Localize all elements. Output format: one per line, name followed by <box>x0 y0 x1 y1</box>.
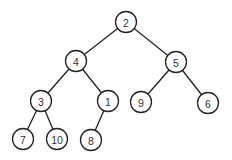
tree-node: 2 <box>116 12 137 33</box>
node-label: 4 <box>73 56 79 68</box>
tree-node: 6 <box>198 93 219 114</box>
node-label: 5 <box>173 57 179 69</box>
tree-nodes: 24531967108 <box>13 12 219 151</box>
tree-node: 7 <box>13 129 34 150</box>
binary-tree-diagram: 24531967108 <box>0 0 232 160</box>
tree-node: 3 <box>31 91 52 112</box>
tree-node: 8 <box>81 130 102 151</box>
tree-node: 10 <box>47 129 68 150</box>
node-label: 2 <box>123 17 129 29</box>
tree-node: 4 <box>66 51 87 72</box>
node-label: 10 <box>51 134 63 146</box>
node-label: 1 <box>105 96 111 108</box>
node-label: 7 <box>20 134 26 146</box>
tree-node: 9 <box>131 92 152 113</box>
tree-edges <box>23 22 208 140</box>
node-label: 3 <box>38 96 44 108</box>
tree-node: 1 <box>98 91 119 112</box>
node-label: 6 <box>205 98 211 110</box>
node-label: 9 <box>138 97 144 109</box>
tree-node: 5 <box>166 52 187 73</box>
node-label: 8 <box>88 135 94 147</box>
